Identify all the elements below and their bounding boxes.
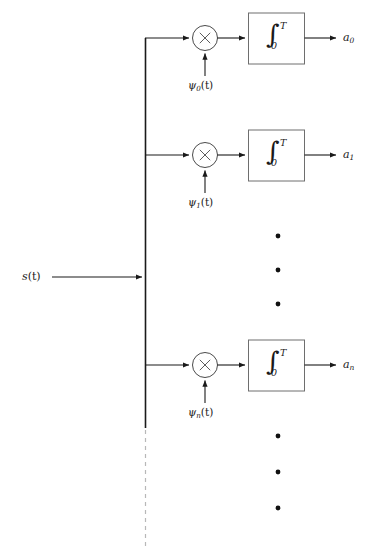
output-0-subscript: 0 — [350, 36, 355, 45]
integral-upper-limit: T — [280, 137, 286, 148]
output-1-label: a1 — [343, 149, 354, 162]
output-2-label: an — [343, 359, 354, 372]
correlator-bank-diagram: s(t) ∫ T 0 ∫ T 0 ∫ T 0 ψ0(t) ψ1(t) ψn(t) — [0, 0, 374, 557]
integrator-2-expression: ∫ T 0 — [266, 348, 280, 374]
integral-upper-limit: T — [280, 20, 286, 31]
basis-function-0-label: ψ0(t) — [188, 80, 213, 92]
integral-lower-limit: 0 — [271, 157, 277, 168]
input-signal-label: s(t) — [22, 271, 41, 282]
integral-lower-limit: 0 — [271, 367, 277, 378]
output-0-label: a0 — [343, 32, 354, 45]
integrator-0-expression: ∫ T 0 — [266, 21, 280, 47]
ellipsis-bottom — [276, 434, 281, 511]
output-2-subscript: n — [350, 363, 355, 372]
basis-2-argument: (t) — [201, 406, 213, 418]
basis-function-2-label: ψn(t) — [188, 407, 213, 419]
integral-lower-limit: 0 — [271, 40, 277, 51]
input-signal-argument: (t) — [28, 270, 41, 283]
basis-1-argument: (t) — [201, 196, 213, 208]
output-1-subscript: 1 — [350, 153, 355, 162]
branch-1-wiring — [145, 130, 336, 193]
basis-0-symbol: ψ — [188, 79, 196, 91]
basis-function-1-label: ψ1(t) — [188, 197, 213, 209]
basis-2-symbol: ψ — [188, 406, 196, 418]
integrator-1-expression: ∫ T 0 — [266, 138, 280, 164]
basis-1-symbol: ψ — [188, 196, 196, 208]
ellipsis-middle — [276, 234, 281, 307]
diagram-vector-layer — [0, 0, 374, 557]
integral-upper-limit: T — [280, 347, 286, 358]
branch-2-wiring — [145, 340, 336, 403]
branch-0-wiring — [145, 13, 336, 76]
basis-0-argument: (t) — [201, 79, 213, 91]
